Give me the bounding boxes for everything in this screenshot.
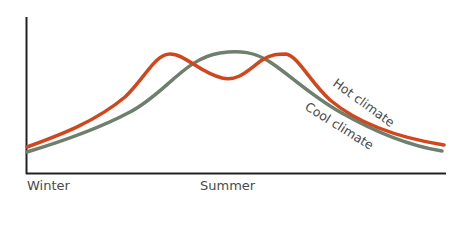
x-tick-label-winter: Winter — [27, 178, 70, 193]
x-tick-label-summer: Summer — [200, 178, 255, 193]
cool-climate-curve — [27, 52, 442, 152]
